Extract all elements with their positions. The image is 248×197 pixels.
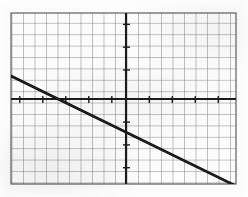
graph-canvas	[0, 0, 248, 197]
graph-figure	[0, 0, 248, 197]
